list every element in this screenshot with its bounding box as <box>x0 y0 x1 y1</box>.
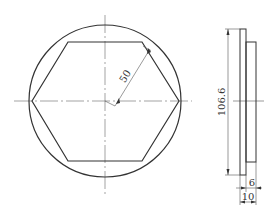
height-label: 106.6 <box>216 88 227 117</box>
side-view: 106.6 6 10 <box>216 29 264 205</box>
step-thickness-label: 6 <box>249 177 255 188</box>
plate-body <box>240 29 246 175</box>
radius-dimension: 50 <box>105 46 151 106</box>
technical-drawing: 50 106.6 6 10 <box>0 0 279 220</box>
front-view: 50 <box>14 15 192 196</box>
total-thickness-label: 10 <box>242 191 255 202</box>
plate-step <box>246 42 256 162</box>
height-dimension: 106.6 <box>216 29 240 175</box>
radius-label: 50 <box>117 68 133 85</box>
